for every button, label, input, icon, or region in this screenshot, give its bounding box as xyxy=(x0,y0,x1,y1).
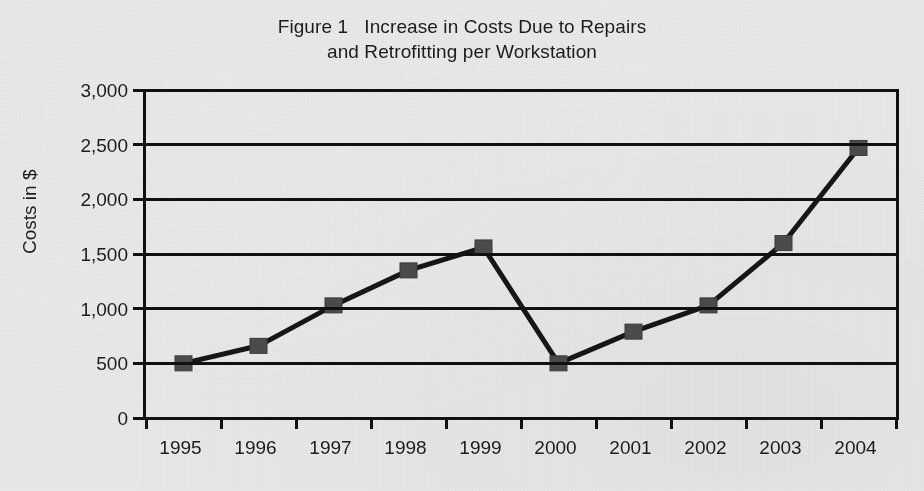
x-axis-tick-label: 2002 xyxy=(684,437,726,459)
x-axis-tick-labels: 1995199619971998199920002001200220032004 xyxy=(143,437,893,465)
data-point-marker xyxy=(775,236,792,251)
y-axis-tick-label: 2,500 xyxy=(80,135,128,154)
x-axis-tick xyxy=(895,418,898,429)
x-axis-tick xyxy=(520,418,523,429)
gridline-y xyxy=(143,307,899,310)
figure-container: Figure 1 Increase in Costs Due to Repair… xyxy=(0,0,924,491)
gridline-y xyxy=(143,89,899,92)
gridline-y xyxy=(143,362,899,365)
y-axis-tick xyxy=(133,89,144,92)
y-axis-tick-label: 1,000 xyxy=(80,299,128,318)
y-axis-tick xyxy=(133,143,144,146)
y-axis-tick-label: 1,500 xyxy=(80,245,128,264)
gridline-y xyxy=(143,198,899,201)
y-axis-tick xyxy=(133,198,144,201)
y-axis-tick-label: 500 xyxy=(96,354,128,373)
x-axis-tick-label: 2003 xyxy=(759,437,801,459)
y-axis-tick-labels: 3,0002,5002,0001,5001,0005000 xyxy=(0,90,128,418)
x-axis-tick xyxy=(445,418,448,429)
data-point-marker xyxy=(400,263,417,278)
chart-title-line-1: Figure 1 Increase in Costs Due to Repair… xyxy=(0,14,924,39)
data-point-marker xyxy=(700,298,717,313)
x-axis-tick-label: 2004 xyxy=(834,437,876,459)
chart-title-line-2: and Retrofitting per Workstation xyxy=(0,39,924,64)
series-line xyxy=(184,148,859,363)
x-axis-tick-label: 2000 xyxy=(534,437,576,459)
x-axis-tick xyxy=(145,418,148,429)
x-axis-tick-label: 1995 xyxy=(159,437,201,459)
data-point-marker xyxy=(325,298,342,313)
x-axis-tick xyxy=(670,418,673,429)
data-point-marker xyxy=(625,324,642,339)
x-axis-tick-label: 1999 xyxy=(459,437,501,459)
plot-area xyxy=(143,90,899,418)
x-axis-tick xyxy=(745,418,748,429)
y-axis-tick xyxy=(133,253,144,256)
chart-title: Figure 1 Increase in Costs Due to Repair… xyxy=(0,14,924,64)
x-axis-tick xyxy=(820,418,823,429)
y-axis-tick-label: 0 xyxy=(117,409,128,428)
y-axis-tick xyxy=(133,417,144,420)
y-axis-tick-label: 2,000 xyxy=(80,190,128,209)
x-axis-tick xyxy=(220,418,223,429)
gridline-y xyxy=(143,253,899,256)
y-axis-tick xyxy=(133,307,144,310)
x-axis-tick xyxy=(295,418,298,429)
x-axis-tick-label: 2001 xyxy=(609,437,651,459)
x-axis-tick-label: 1996 xyxy=(234,437,276,459)
x-axis-tick-label: 1997 xyxy=(309,437,351,459)
x-axis-tick xyxy=(595,418,598,429)
y-axis-tick xyxy=(133,362,144,365)
y-axis-tick-label: 3,000 xyxy=(80,81,128,100)
data-point-marker xyxy=(250,338,267,353)
gridline-y xyxy=(143,143,899,146)
x-axis-tick xyxy=(370,418,373,429)
x-axis-tick-label: 1998 xyxy=(384,437,426,459)
